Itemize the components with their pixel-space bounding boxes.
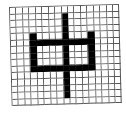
glyph-bitmap [9,4,122,106]
empty-cell [116,97,123,104]
pixel-grid [9,4,122,106]
